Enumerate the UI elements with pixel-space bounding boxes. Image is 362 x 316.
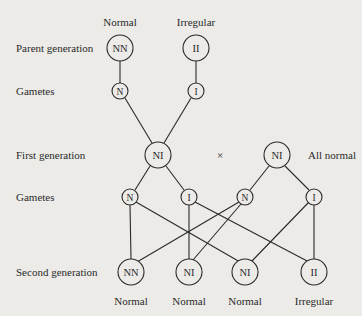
second-gen-phenotype-3: Normal — [228, 295, 262, 307]
second-gen-genotype-1: NN — [123, 267, 139, 278]
first-gen-note: All normal — [308, 149, 356, 161]
line-i-to-ni — [164, 98, 191, 143]
second-gen-phenotype-2: Normal — [172, 295, 206, 307]
line-ni2-to-n — [250, 166, 269, 190]
row-label-gametes-2: Gametes — [16, 191, 54, 203]
gamete-2-d: I — [312, 193, 315, 203]
line-ni-to-n — [135, 166, 150, 190]
inheritance-diagram: Parent generation Gametes First generati… — [0, 0, 362, 316]
first-gen-left-genotype: NI — [152, 150, 164, 161]
parent-right-phenotype: Irregular — [177, 16, 216, 28]
line-i1-to-ii — [195, 202, 309, 262]
row-label-parent: Parent generation — [16, 42, 94, 54]
gamete-2-c: N — [242, 193, 249, 203]
parent-right-genotype: II — [193, 43, 200, 54]
gamete-2-a: N — [127, 193, 134, 203]
gamete-1-n: N — [117, 87, 124, 97]
first-gen-right-genotype: NI — [271, 150, 283, 161]
row-label-second-generation: Second generation — [16, 266, 98, 278]
gamete-1-i: I — [194, 87, 197, 97]
gamete-2-b: I — [187, 193, 190, 203]
second-gen-genotype-4: II — [311, 267, 318, 278]
second-gen-genotype-2: NI — [183, 267, 195, 278]
line-n-to-ni — [125, 98, 152, 143]
second-gen-genotype-3: NI — [239, 267, 251, 278]
line-i2-to-ni2 — [251, 202, 309, 262]
second-gen-phenotype-4: Irregular — [295, 295, 334, 307]
line-ni2-to-i — [285, 166, 309, 190]
line-n1-to-nn — [130, 205, 131, 259]
row-label-first-generation: First generation — [16, 149, 86, 161]
cross-symbol: × — [217, 149, 223, 161]
line-ni-to-i — [166, 166, 184, 190]
parent-left-genotype: NN — [112, 43, 128, 54]
row-label-gametes-1: Gametes — [16, 85, 54, 97]
line-n2-to-ni1 — [193, 204, 241, 260]
second-gen-phenotype-1: Normal — [114, 295, 148, 307]
parent-left-phenotype: Normal — [103, 16, 137, 28]
